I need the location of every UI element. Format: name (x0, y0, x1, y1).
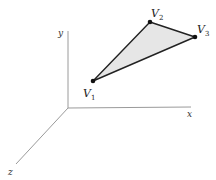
diagram-canvas: y x z V1 V2 V3 (0, 0, 216, 180)
vertex-v2-label: V2 (151, 7, 163, 22)
vertex-v2-point (148, 20, 153, 25)
vertex-v3-label: V3 (197, 23, 209, 38)
z-axis-label: z (7, 167, 13, 177)
vertex-v1-label: V1 (83, 87, 95, 102)
x-axis (68, 107, 191, 108)
x-axis-label: x (187, 109, 192, 119)
vertex-v1-point (91, 79, 96, 84)
triangle-face (93, 22, 195, 81)
z-axis (16, 108, 68, 164)
y-axis-label: y (57, 28, 64, 38)
